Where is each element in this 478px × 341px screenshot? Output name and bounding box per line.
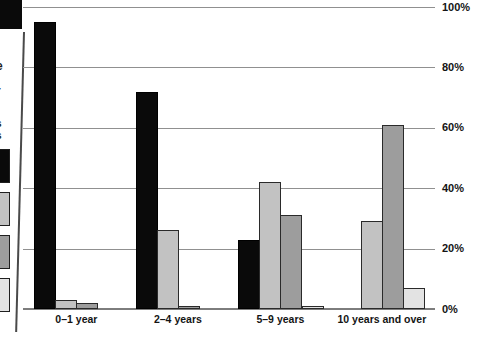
cropped-black-block [0,0,22,29]
gridline-60 [23,128,435,129]
bar-light-gray-group3 [259,182,281,309]
x-tick-label-1: 0–1 year [55,314,97,325]
gridline-80 [23,67,435,68]
bar-pale-gray-group4 [403,288,425,309]
bar-light-gray-group1 [55,300,77,309]
bar-black-group2 [136,92,158,309]
bar-pale-gray-group3 [302,306,324,309]
bar-black-group1 [34,22,56,309]
cut-text-fragment: s [0,131,2,141]
cut-text-fragment: e [0,60,3,72]
y-tick-label-40: 40% [442,183,464,194]
legend-swatch-light-gray [0,192,10,226]
bar-medium-gray-group4 [382,125,404,309]
page-edge-rule [15,32,24,332]
y-tick-label-0: 0% [442,304,458,315]
cut-text-fragment: r [0,85,1,97]
x-tick-label-2: 2–4 years [154,314,202,325]
cut-text-fragment: s [0,119,2,129]
y-tick-label-80: 80% [442,62,464,73]
legend-swatch-pale-gray [0,278,10,312]
figure-canvas: tetr.ss 0%20%40%60%80%100%0–1 year2–4 ye… [0,0,478,341]
y-tick-label-20: 20% [442,243,464,254]
bar-black-group3 [238,240,260,309]
bar-medium-gray-group2 [178,306,200,309]
bar-medium-gray-group1 [76,303,98,309]
x-tick-label-4: 10 years and over [338,314,427,325]
y-tick-label-60: 60% [442,122,464,133]
legend-swatch-black [0,149,10,183]
gridline-100 [23,7,435,8]
x-tick-label-3: 5–9 years [256,314,304,325]
y-tick-label-100: 100% [442,2,470,13]
bar-medium-gray-group3 [280,215,302,309]
legend-swatch-medium-gray [0,235,10,269]
gridline-40 [23,188,435,189]
bar-light-gray-group4 [361,221,383,309]
bar-light-gray-group2 [157,230,179,309]
